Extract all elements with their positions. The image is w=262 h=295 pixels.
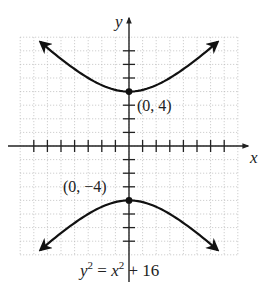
vertex-point-lower — [126, 197, 133, 204]
equation-label: y2 = x2 + 16 — [78, 259, 159, 280]
vertex-point-upper — [126, 88, 133, 95]
hyperbola-graph: y x (0, 4) (0, −4) y2 = x2 + 16 — [0, 0, 262, 295]
y-axis-label: y — [113, 12, 123, 31]
point-label-lower: (0, −4) — [63, 178, 107, 196]
x-axis-label: x — [249, 148, 258, 167]
point-label-upper: (0, 4) — [137, 97, 172, 115]
